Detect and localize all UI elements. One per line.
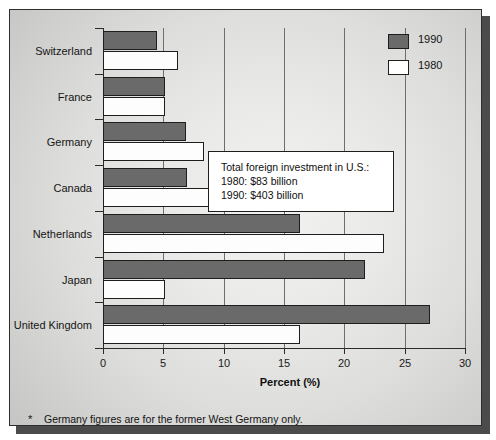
category-label: Canada: [10, 182, 92, 194]
bar-1990-netherlands: [103, 214, 300, 233]
category-tick: [95, 74, 104, 75]
category-tick: [95, 119, 104, 120]
category-tick: [95, 211, 104, 212]
x-axis-tick: [465, 348, 466, 354]
callout-box: Total foreign investment in U.S.: 1980: …: [208, 151, 394, 212]
category-label: France: [10, 91, 92, 103]
x-axis-line: [103, 348, 465, 349]
chart-panel: 051015202530SwitzerlandFranceGermanyCana…: [9, 9, 482, 426]
category-label: Japan: [10, 274, 92, 286]
legend-item-1990: 1990: [388, 32, 466, 58]
category-label: United Kingdom: [10, 319, 92, 331]
category-tick: [95, 302, 104, 303]
category-tick: [95, 257, 104, 258]
category-tick: [95, 165, 104, 166]
bar-1990-france: [103, 77, 165, 96]
bar-1990-canada: [103, 168, 187, 187]
x-axis-tick-label: 5: [143, 357, 183, 369]
category-tick: [95, 348, 104, 349]
x-axis-tick-label: 0: [83, 357, 123, 369]
legend-swatch-1980: [388, 60, 409, 75]
category-tick: [95, 28, 104, 29]
category-label: Switzerland: [10, 45, 92, 57]
x-axis-tick-label: 10: [204, 357, 244, 369]
bar-1980-japan: [103, 280, 165, 299]
legend-label-1980: 1980: [418, 59, 442, 71]
x-axis-tick-label: 25: [385, 357, 425, 369]
category-label: Netherlands: [10, 228, 92, 240]
bar-1980-netherlands: [103, 234, 384, 253]
x-axis-tick-label: 20: [324, 357, 364, 369]
footnote-text: Germany figures are for the former West …: [44, 413, 303, 425]
bar-1980-germany: [103, 142, 204, 161]
legend-label-1990: 1990: [418, 33, 442, 45]
legend-swatch-1990: [388, 34, 409, 49]
chart-figure: 051015202530SwitzerlandFranceGermanyCana…: [0, 0, 496, 440]
bar-1990-germany: [103, 122, 186, 141]
callout-line-1980: 1980: $83 billion: [221, 174, 383, 188]
category-label: Germany: [10, 136, 92, 148]
x-axis-tick-label: 30: [445, 357, 482, 369]
bar-1990-united-kingdom: [103, 305, 430, 324]
bar-1980-switzerland: [103, 51, 178, 70]
x-axis-title: Percent (%): [190, 376, 390, 388]
bar-1990-japan: [103, 260, 365, 279]
bar-1980-france: [103, 97, 165, 116]
callout-line-1990: 1990: $403 billion: [221, 188, 383, 202]
chart-legend: 1990 1980: [388, 32, 466, 84]
legend-item-1980: 1980: [388, 58, 466, 84]
x-axis-tick-label: 15: [264, 357, 304, 369]
bar-1980-united-kingdom: [103, 325, 300, 344]
footnote-marker: *: [28, 413, 32, 425]
bar-1990-switzerland: [103, 31, 157, 50]
callout-line-title: Total foreign investment in U.S.:: [221, 160, 383, 174]
